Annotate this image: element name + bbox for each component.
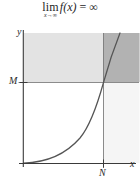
region-right-of-N-below-M [104,82,140,163]
x-axis-label: x [130,159,134,169]
limit-subscript: x→∞ [44,12,57,18]
limit-sub-infinity: ∞ [53,12,57,18]
limit-result-infinity: ∞ [89,0,98,14]
plot-area [0,26,140,185]
threshold-label-M: M [9,76,17,86]
figure-container: limx→∞ f(x) = ∞ y x [0,0,140,185]
threshold-label-N: N [99,168,106,178]
limit-function: f(x) [60,0,77,14]
region-right-of-N-above-M [104,33,140,82]
y-axis-label: y [17,27,21,37]
limit-formula: limx→∞ f(x) = ∞ [0,1,140,13]
limit-operator: limx→∞ [42,1,59,13]
